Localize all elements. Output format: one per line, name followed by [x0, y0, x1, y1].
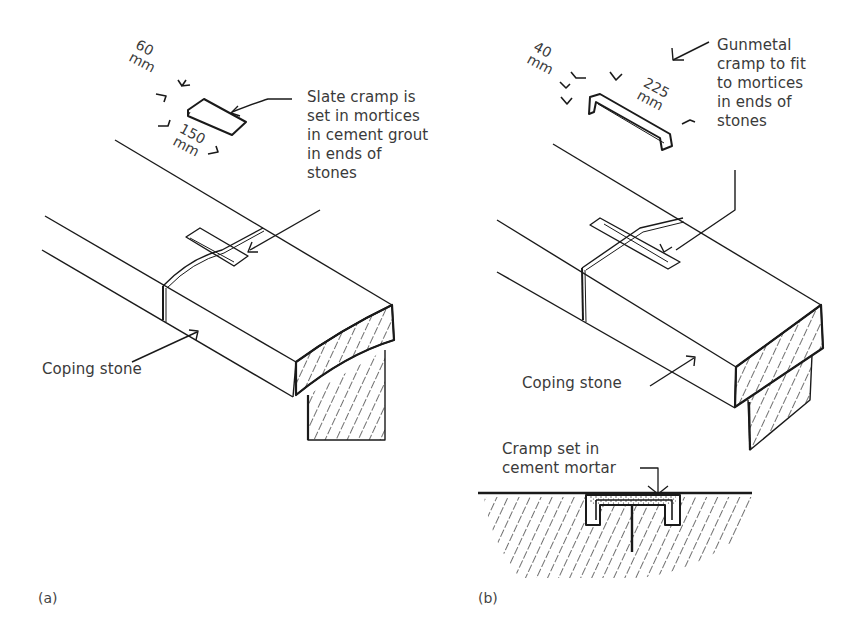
panel-a-cramp-label: Slate cramp is set in mortices in cement…: [307, 88, 428, 183]
panel-b-tag: (b): [478, 590, 498, 606]
panel-b-cramp-label: Gunmetal cramp to fit to mortices in end…: [717, 36, 806, 131]
panel-a-tag: (a): [38, 590, 58, 606]
panel-b-section-label: Cramp set in cement mortar: [502, 440, 616, 478]
panel-b-coping-label: Coping stone: [522, 374, 622, 393]
panel-a-coping-label: Coping stone: [42, 360, 142, 379]
